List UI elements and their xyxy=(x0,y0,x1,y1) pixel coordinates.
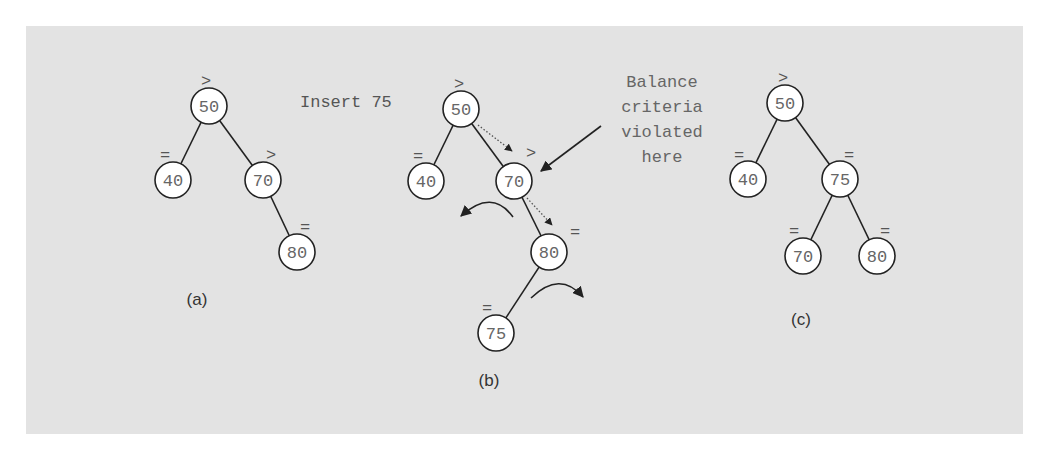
balance-indicator: = xyxy=(300,218,310,237)
node-value: 40 xyxy=(163,172,183,191)
node-value: 80 xyxy=(539,244,559,263)
node-value: 50 xyxy=(775,95,795,114)
balance-indicator: > xyxy=(266,146,276,165)
tree-a: 50 > 40 = 70 > 80 = (a) xyxy=(155,72,315,309)
balance-indicator: = xyxy=(789,222,799,241)
balance-indicator: > xyxy=(201,72,211,91)
note-line: violated xyxy=(621,123,703,142)
node-value: 40 xyxy=(738,171,758,190)
avl-diagram: 50 > 40 = 70 > 80 = (a) Insert 75 xyxy=(0,0,1046,456)
balance-indicator: = xyxy=(413,147,423,166)
tree-node: 50 > xyxy=(443,75,479,127)
node-value: 50 xyxy=(451,101,471,120)
caption-a: (a) xyxy=(187,290,208,309)
node-value: 80 xyxy=(867,248,887,267)
node-value: 40 xyxy=(416,173,436,192)
tree-node: 70 > xyxy=(496,144,536,199)
tree-c: 50 > 40 = 75 = 70 = 80 = (c) xyxy=(730,69,895,329)
balance-indicator: = xyxy=(482,299,492,318)
node-value: 70 xyxy=(793,248,813,267)
node-value: 70 xyxy=(504,173,524,192)
rotate-right-arrow-icon xyxy=(531,284,583,298)
balance-indicator: = xyxy=(844,146,854,165)
note-line: here xyxy=(642,148,683,167)
balance-violation-note: Balance criteria violated here xyxy=(541,73,703,171)
balance-indicator: = xyxy=(570,223,580,242)
node-value: 75 xyxy=(486,325,506,344)
node-value: 80 xyxy=(287,244,307,263)
balance-indicator: > xyxy=(454,75,464,94)
insert-label: Insert 75 xyxy=(300,93,392,112)
insert-path-arrow xyxy=(527,198,552,225)
balance-indicator: = xyxy=(880,222,890,241)
node-value: 70 xyxy=(253,172,273,191)
tree-b: Insert 75 50 > 40 = 70 > 80 = xyxy=(300,73,703,390)
pointer-arrow-icon xyxy=(541,126,601,171)
tree-node: 70 > xyxy=(245,146,281,198)
node-value: 75 xyxy=(830,171,850,190)
balance-indicator: = xyxy=(734,146,744,165)
caption-c: (c) xyxy=(791,310,811,329)
rotate-left-arrow-icon xyxy=(461,202,513,217)
note-line: Balance xyxy=(626,73,697,92)
balance-indicator: > xyxy=(778,69,788,88)
tree-node: 75 = xyxy=(478,299,514,351)
caption-b: (b) xyxy=(479,371,500,390)
tree-node: 50 > xyxy=(767,69,803,121)
node-value: 50 xyxy=(199,98,219,117)
tree-node: 75 = xyxy=(822,146,858,197)
balance-indicator: = xyxy=(160,146,170,165)
balance-indicator: > xyxy=(526,144,536,163)
tree-node: 50 > xyxy=(191,72,227,124)
note-line: criteria xyxy=(621,98,703,117)
